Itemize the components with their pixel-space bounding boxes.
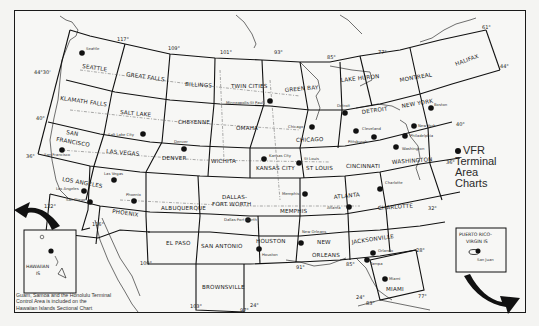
lat-36-east: 36° bbox=[446, 159, 455, 165]
terminal-salt-lake: Salt Lake City bbox=[108, 132, 135, 137]
puerto-rico-inset: PUERTO RICO- VIRGIN IS San Juan bbox=[456, 228, 506, 272]
lat-36: 36° bbox=[26, 153, 35, 159]
terminal-areas: Seattle Minneapolis-St Paul Salt Lake Ci… bbox=[44, 46, 448, 282]
chart-jacksonville: JACKSONVILLE bbox=[350, 233, 394, 246]
lat-40-east: 40° bbox=[456, 121, 465, 127]
chart-montreal: MONTREAL bbox=[399, 71, 433, 83]
terminal-san-diego: San Diego bbox=[66, 197, 86, 202]
chart-green-bay: GREEN BAY bbox=[285, 84, 319, 93]
lon-122: 122° bbox=[44, 203, 57, 209]
hawaii-inset: HAWAIIAN IS bbox=[24, 230, 76, 293]
terminal-washington: Washington bbox=[402, 146, 425, 151]
chart-san-francisco-1: SAN bbox=[66, 129, 79, 137]
chart-seattle: SEATTLE bbox=[82, 63, 108, 72]
chart-st-louis: ST LOUIS bbox=[306, 165, 333, 171]
lon-97: 97° bbox=[240, 307, 249, 313]
chart-houston: HOUSTON bbox=[256, 238, 286, 244]
lon-83: 83° bbox=[366, 300, 375, 306]
terminal-orlando: Orlando bbox=[378, 248, 394, 253]
terminal-atlanta: Atlanta bbox=[327, 205, 341, 210]
terminal-st-louis: St Louis bbox=[304, 156, 319, 161]
terminal-cleveland: Cleveland bbox=[362, 126, 381, 131]
chart-cheyenne: CHEYENNE bbox=[178, 119, 210, 125]
chart-san-francisco-2: FRANCISCO bbox=[56, 136, 91, 148]
chart-klamath-falls: KLAMATH FALLS bbox=[60, 95, 108, 108]
terminal-houston: Houston bbox=[262, 252, 278, 257]
terminal-area-dot-icon bbox=[455, 148, 461, 154]
lon-103: 103° bbox=[190, 303, 203, 309]
chart-washington: WASHINGTON bbox=[392, 156, 433, 165]
legend: VFR Terminal Area Charts bbox=[455, 145, 497, 189]
chart-san-antonio: SAN ANTONIO bbox=[201, 243, 243, 249]
terminal-boston: Boston bbox=[434, 102, 448, 107]
san-juan-label: San Juan bbox=[477, 257, 494, 262]
chart-denver: DENVER bbox=[162, 155, 186, 161]
lat-24: 24° bbox=[250, 302, 259, 308]
chart-memphis: MEMPHIS bbox=[280, 208, 308, 214]
chart-twin-cities: TWIN CITIES bbox=[230, 83, 268, 89]
chart-new-orleans-1: NEW bbox=[317, 239, 331, 245]
lat-28: 28° bbox=[416, 247, 425, 253]
terminal-san-francisco: San Francisco bbox=[44, 152, 71, 157]
terminal-detroit: Detroit bbox=[337, 103, 351, 108]
lon-93: 93° bbox=[274, 49, 283, 55]
chart-charlotte: CHARLOTTE bbox=[378, 203, 414, 211]
chart-wichita: WICHITA bbox=[211, 158, 236, 164]
terminal-los-angeles: Los Angeles bbox=[56, 186, 79, 191]
terminal-new-york: New York bbox=[418, 123, 436, 128]
lon-77: 77° bbox=[378, 49, 387, 55]
terminal-tampa: Tampa bbox=[369, 261, 382, 266]
lon-109-bottom: 109° bbox=[140, 260, 153, 266]
terminal-denver: Denver bbox=[174, 139, 188, 144]
lat-40: 40° bbox=[36, 115, 45, 121]
terminal-dallas: Dallas-Fort Worth bbox=[224, 217, 258, 222]
terminal-phoenix: Phoenix bbox=[126, 192, 142, 197]
chart-cincinnati: CINCINNATI bbox=[346, 163, 380, 169]
terminal-pittsburgh: Pittsburgh bbox=[348, 139, 368, 144]
arrow-to-puerto-rico-icon bbox=[464, 274, 520, 314]
lon-101: 101° bbox=[220, 49, 233, 55]
lon-117: 117° bbox=[117, 36, 130, 42]
chart-omaha: OMAHA bbox=[236, 125, 258, 131]
chart-lake-huron: LAKE HURON bbox=[340, 73, 379, 83]
terminal-philadelphia: Philadelphia bbox=[410, 133, 433, 138]
lon-85: 85° bbox=[327, 54, 336, 60]
terminal-minneapolis: Minneapolis-St Paul bbox=[226, 100, 263, 105]
lon-116: 116° bbox=[92, 221, 105, 227]
legend-line-4: Charts bbox=[455, 178, 497, 189]
chart-great-falls: GREAT FALLS bbox=[126, 71, 166, 82]
terminal-new-orleans: New Orleans bbox=[302, 229, 326, 234]
note-line-3: Hawaiian Islands Sectional Chart bbox=[16, 305, 111, 311]
chart-chicago: CHICAGO bbox=[296, 136, 324, 143]
hawaii-note: Guam, Samoa and the Honolulu Terminal Co… bbox=[16, 292, 111, 311]
lat-32: 32° bbox=[428, 205, 437, 211]
terminal-chicago: Chicago bbox=[288, 124, 304, 129]
lon-77-bottom: 77° bbox=[418, 293, 427, 299]
terminal-charlotte: Charlotte bbox=[385, 180, 403, 185]
chart-las-vegas: LAS VEGAS bbox=[106, 148, 140, 157]
lon-109: 109° bbox=[168, 45, 181, 51]
chart-salt-lake: SALT LAKE bbox=[120, 109, 152, 118]
chart-miami: MIAMI bbox=[386, 286, 404, 292]
lat-44-east: 44° bbox=[500, 63, 509, 69]
chart-billings: BILLINGS bbox=[185, 81, 213, 88]
chart-halifax: HALIFAX bbox=[454, 53, 479, 67]
puerto-rico-label: PUERTO RICO- bbox=[459, 232, 492, 237]
chart-dallas-2: FORT WORTH bbox=[212, 201, 251, 207]
terminal-las-vegas: Las Vegas bbox=[104, 171, 123, 176]
chart-phoenix: PHOENIX bbox=[112, 208, 139, 218]
hawaii-label-is: IS bbox=[36, 271, 40, 276]
terminal-miami: Miami bbox=[389, 276, 400, 281]
terminal-kansas-city: Kansas City bbox=[269, 153, 292, 158]
lon-85-bottom: 85° bbox=[346, 261, 355, 267]
terminal-seattle: Seattle bbox=[86, 46, 100, 51]
chart-dallas-1: DALLAS- bbox=[222, 194, 247, 200]
lon-61: 61° bbox=[482, 24, 491, 30]
virgin-islands-label: VIRGIN IS bbox=[466, 239, 488, 244]
chart-albuquerque: ALBUQUERQUE bbox=[161, 205, 206, 211]
lat-44-30: 44°30' bbox=[34, 69, 51, 75]
chart-new-orleans-2: ORLEANS bbox=[312, 252, 340, 258]
chart-brownsville: BROWNSVILLE bbox=[202, 284, 245, 290]
chart-kansas-city: KANSAS CITY bbox=[256, 165, 295, 171]
terminal-memphis: Memphis bbox=[282, 191, 299, 196]
